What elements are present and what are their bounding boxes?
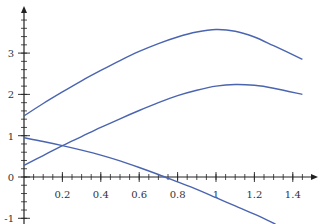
y-axis-arrow-icon bbox=[21, 6, 27, 13]
y-tick-label: 3 bbox=[8, 48, 14, 59]
series-line-curve-upper bbox=[24, 30, 302, 116]
x-tick-label: 1.2 bbox=[246, 189, 262, 200]
y-tick-label: 2 bbox=[8, 89, 14, 100]
line-chart: 0.20.40.60.811.21.4-10123 bbox=[0, 0, 328, 224]
y-tick-label: -1 bbox=[4, 213, 14, 224]
series-line-curve-middle bbox=[24, 84, 302, 165]
tick-labels: 0.20.40.60.811.21.4-10123 bbox=[4, 48, 301, 224]
x-tick-label: 0.8 bbox=[170, 189, 186, 200]
x-tick-label: 0.4 bbox=[93, 189, 109, 200]
series-line-curve-descending bbox=[24, 138, 276, 224]
x-tick-label: 0.2 bbox=[54, 189, 70, 200]
x-tick-label: 0.6 bbox=[131, 189, 147, 200]
y-tick-label: 1 bbox=[8, 131, 14, 142]
y-tick-label: 0 bbox=[8, 172, 14, 183]
x-axis-arrow-icon bbox=[311, 174, 318, 180]
x-tick-label: 1.4 bbox=[285, 189, 301, 200]
